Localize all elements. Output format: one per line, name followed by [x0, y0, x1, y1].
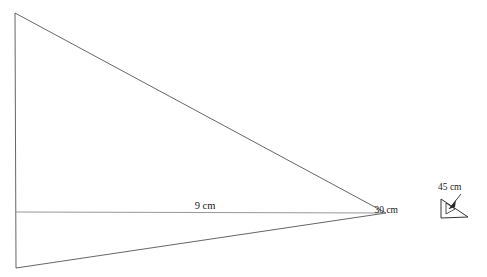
- figure-background: [0, 0, 487, 277]
- geometry-figure: 9 cm 30 cm 45 cm: [0, 0, 487, 277]
- diagram-canvas: 9 cm 30 cm 45 cm: [0, 0, 487, 277]
- inset-side-a-label: 30 cm: [375, 205, 399, 215]
- inset-side-b-label: 45 cm: [438, 182, 462, 192]
- base-length-label: 9 cm: [195, 200, 216, 211]
